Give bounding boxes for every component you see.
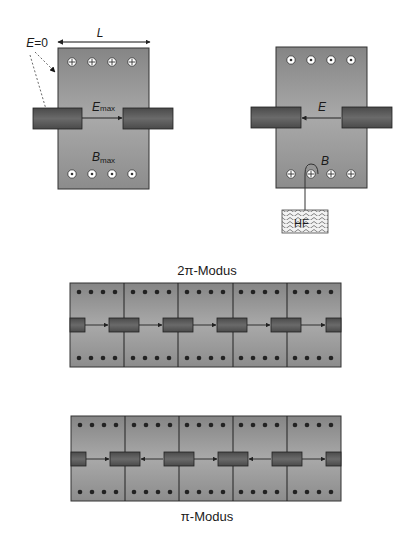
label-E0: E=0: [26, 36, 48, 50]
single-cavity-right: E B HF: [251, 47, 392, 233]
structure-2pi-mode: [70, 283, 341, 367]
drift-tube-left: [251, 107, 301, 128]
label-E: E: [318, 100, 327, 114]
label-Bmax-sub: max: [100, 156, 115, 165]
drift-tube-right: [342, 107, 392, 128]
drift-tube-right: [123, 108, 173, 129]
pointer-arrow-wall: [35, 52, 55, 72]
diagram-canvas: L E=0 E max B max E B: [0, 0, 414, 534]
single-cavity-left: L E=0 E max B max: [26, 26, 173, 189]
title-pi-mode: π-Modus: [181, 509, 234, 524]
title-2pi-mode: 2π-Modus: [177, 263, 237, 278]
pointer-arrow-tube: [30, 55, 48, 116]
structure-pi-mode: [71, 416, 341, 501]
label-Bmax: B: [92, 150, 100, 164]
label-HF: HF: [294, 217, 309, 229]
label-Emax-sub: max: [100, 104, 115, 113]
drift-tube-left: [33, 108, 82, 129]
label-L: L: [97, 26, 104, 40]
label-B: B: [321, 154, 329, 168]
